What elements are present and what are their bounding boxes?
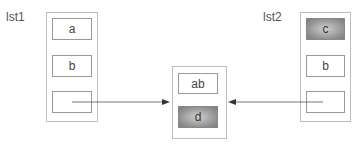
- arrow-lst2-to-center: [228, 99, 323, 105]
- pointer-arrows: [0, 0, 357, 144]
- arrow-lst1-to-center: [72, 99, 170, 105]
